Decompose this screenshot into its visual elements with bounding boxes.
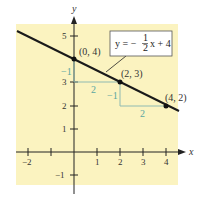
- point: [164, 104, 169, 109]
- point-label: (2, 3): [121, 68, 143, 80]
- rise-label: −1: [61, 66, 72, 77]
- rise-label: −1: [107, 90, 118, 101]
- x-tick-label: 2: [118, 157, 123, 167]
- point-label: (0, 4): [79, 46, 101, 58]
- y-tick-label: 5: [62, 31, 67, 41]
- equation-rhs: x + 4: [150, 38, 171, 49]
- point: [118, 80, 123, 85]
- x-axis-arrow-icon: [178, 149, 186, 155]
- x-tick-label: 1: [95, 157, 100, 167]
- y-tick-label: 3: [62, 77, 67, 87]
- y-tick-label: −1: [55, 170, 65, 180]
- x-axis-label: x: [188, 146, 194, 157]
- equation-lhs: y = −: [115, 38, 137, 49]
- y-axis-arrow-icon: [71, 16, 77, 24]
- x-tick-label: 3: [141, 157, 146, 167]
- run-label: 2: [91, 84, 96, 95]
- x-tick-label: 4: [164, 157, 169, 167]
- point: [72, 57, 77, 62]
- point-label: (4, 2): [165, 92, 187, 104]
- x-tick-label: −2: [22, 157, 32, 167]
- y-tick-label: 1: [62, 124, 67, 134]
- y-tick-label: 2: [62, 101, 67, 111]
- y-axis-label: y: [71, 3, 77, 14]
- equation-frac-den: 2: [143, 42, 148, 53]
- graph: x y −2 1 2 3 4 5 3 2 1 −1 −1 2 −1 2 (0, …: [0, 0, 206, 201]
- run-label: 2: [140, 108, 145, 119]
